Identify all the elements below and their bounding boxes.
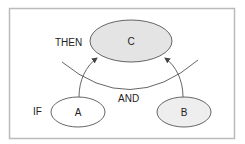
node-a-label: A: [75, 107, 82, 118]
node-a: A: [51, 97, 105, 127]
node-b-label: B: [181, 107, 188, 118]
diagram-svg: C A B THEN IF AND: [0, 0, 245, 144]
node-c-label: C: [127, 36, 134, 47]
if-label: IF: [33, 106, 42, 117]
and-label: AND: [118, 93, 139, 104]
node-b: B: [157, 97, 211, 127]
node-c: C: [90, 20, 172, 62]
diagram-canvas: C A B THEN IF AND: [0, 0, 245, 144]
then-label: THEN: [55, 37, 82, 48]
